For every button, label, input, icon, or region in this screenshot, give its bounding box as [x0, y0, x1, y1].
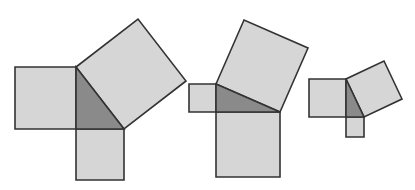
leg-square-short — [309, 79, 346, 117]
figure-2 — [189, 20, 308, 177]
figure-3 — [309, 61, 402, 137]
leg-square-long — [346, 117, 364, 137]
leg-square-long — [216, 112, 280, 177]
figure-1 — [15, 19, 186, 180]
leg-square-short — [15, 67, 76, 129]
leg-square-short — [189, 84, 216, 112]
leg-square-long — [76, 129, 124, 180]
pythagorean-diagram — [0, 0, 415, 190]
